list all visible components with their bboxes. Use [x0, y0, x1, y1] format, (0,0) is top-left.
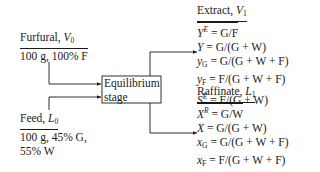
raffinate-title: Raffinate, L1	[197, 84, 255, 103]
raffinate-equation: X = G/(G + W)	[197, 121, 289, 135]
extract-equation: Y = G/(G + W)	[197, 40, 289, 54]
extract-equation: YE = G/F	[197, 22, 238, 40]
raffinate-equation: xG = G/(G + W + F)	[197, 135, 289, 153]
raffinate-equation: xF = F/(G + W + F)	[197, 153, 289, 171]
extract-equation: yG = G/(G + W + F)	[197, 54, 289, 72]
furfural-title: Furfural, V0	[20, 30, 88, 49]
extract-title: Extract, V1	[197, 3, 247, 22]
feed-spec-line1: 100 g, 45% G,	[20, 130, 87, 144]
feed-title: Feed, L0	[20, 111, 58, 130]
furfural-spec: 100 g, 100% F	[20, 49, 88, 63]
equilibrium-stage-label: Equilibrium stage	[104, 76, 160, 104]
furfural-inlet-arrow	[49, 62, 101, 84]
furfural-label: Furfural, V0 100 g, 100% F	[20, 30, 88, 63]
raffinate-equation: XR = G/W	[197, 103, 243, 121]
feed-spec-line2: 55% W	[20, 144, 87, 158]
raffinate-equations: XR = G/WX = G/(G + W)xG = G/(G + W + F)x…	[197, 103, 289, 172]
feed-label: Feed, L0 100 g, 45% G, 55% W	[20, 111, 87, 158]
raffinate-block: Raffinate, L1 XR = G/WX = G/(G + W)xG = …	[197, 84, 289, 172]
raffinate-outlet-arrow	[150, 103, 197, 133]
extract-outlet-arrow	[150, 52, 197, 76]
raffinate-equation: SR = F/(G + W)	[197, 171, 289, 172]
feed-inlet-arrow	[49, 97, 101, 110]
